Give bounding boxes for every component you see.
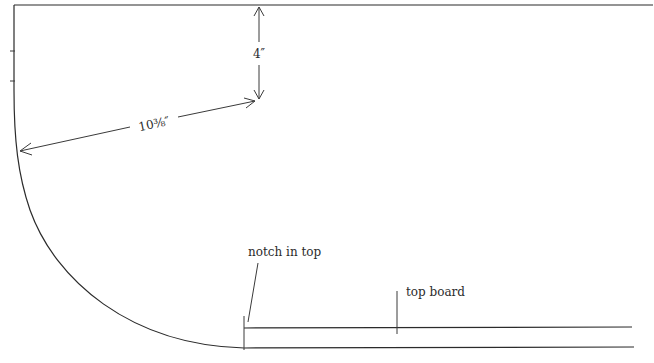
pattern-diagram: 4″ 10⅜″ notch in top top board (0, 0, 654, 363)
curved-edge (14, 5, 244, 348)
vertical-dimension-label: 4″ (253, 47, 266, 61)
notch-label: notch in top (248, 245, 321, 259)
radial-dimension-line-right (178, 101, 255, 117)
top-board-lower-line (244, 347, 634, 348)
radial-dimension-label: 10⅜″ (137, 114, 171, 134)
notch-leader-line (248, 263, 258, 322)
top-board-label: top board (406, 285, 465, 299)
radial-dimension-line-left (20, 127, 130, 151)
top-board-upper-line (244, 327, 632, 328)
